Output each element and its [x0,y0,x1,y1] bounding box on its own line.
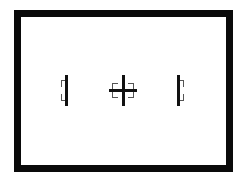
center-bracket-bl [112,92,118,98]
center-vertical-bar [122,75,125,106]
left-vertical-bar [65,75,68,106]
center-bracket-br [128,92,134,98]
right-vertical-bar [177,75,180,106]
